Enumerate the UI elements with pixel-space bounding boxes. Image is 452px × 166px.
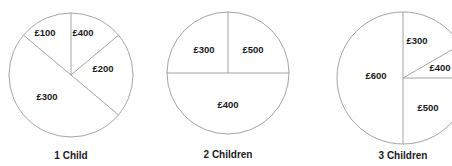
pie-chart-2-children: £500£400£300	[0, 0, 452, 166]
chart-caption: 3 Children	[379, 150, 428, 161]
pie-slice-divider	[71, 35, 118, 75]
pie-slice-label: £400	[217, 99, 238, 110]
pie-slice-label: £400	[72, 27, 93, 38]
chart-caption: 1 Child	[54, 150, 87, 161]
pie-slice-divider	[24, 35, 71, 75]
pie-slice-label: £500	[417, 102, 438, 113]
chart-caption: 2 Children	[204, 149, 253, 160]
pie-outline	[337, 12, 452, 144]
pie-slice-divider	[71, 75, 118, 115]
pie-slice-label: £300	[36, 91, 57, 102]
pie-outline	[9, 13, 133, 137]
pie-slice-label: £200	[92, 63, 113, 74]
pie-svg	[0, 0, 452, 166]
pie-outline	[167, 12, 289, 134]
pie-chart-3-children: £300£400£500£600	[0, 0, 452, 166]
pie-slice-label: £600	[365, 70, 386, 81]
pie-slice-label: £300	[406, 35, 427, 46]
pie-slice-label: £300	[193, 44, 214, 55]
pie-slice-label: £500	[242, 44, 263, 55]
pie-chart-1-child: £400£200£300£100	[0, 0, 452, 166]
pie-slice-label: £400	[429, 62, 450, 73]
pie-chart-figure: £400£200£300£100 £500£400£300 £300£400£5…	[0, 0, 452, 166]
pie-slice-label: £100	[34, 27, 55, 38]
partial-top-text	[0, 0, 452, 4]
pie-svg	[0, 0, 452, 166]
pie-svg	[0, 0, 452, 166]
pie-slice-divider	[403, 45, 452, 78]
